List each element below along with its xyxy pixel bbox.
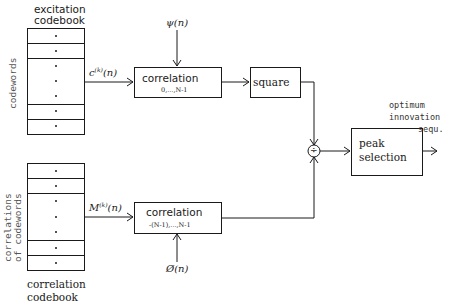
- output-label-line1: optimum: [389, 101, 425, 110]
- correlation-bottom-range: -(N-1),...,N-1: [149, 222, 191, 229]
- correlation-top-label: correlation: [142, 73, 198, 84]
- codeword-signal-label: c(k)(n): [89, 67, 117, 78]
- correlation-block-bottom: correlation -(N-1),...,N-1: [134, 202, 222, 234]
- correlation-codebook-title-line1: correlation: [27, 279, 86, 290]
- excitation-codebook-title-line2: codebook: [34, 15, 85, 26]
- diagram-canvas: excitation codebook codewords correlatio…: [0, 0, 454, 308]
- peak-label-line1: peak: [359, 138, 385, 149]
- mu-signal-label: M(k)(n): [89, 202, 122, 213]
- output-label-line2: innovation: [389, 113, 440, 122]
- psi-signal-label: ψ(n): [166, 18, 188, 28]
- excitation-codebook-title-line1: excitation: [34, 4, 86, 15]
- output-label-line3: sequ.: [418, 125, 444, 134]
- square-block: square: [250, 67, 301, 98]
- phi-signal-label: Ø(n): [166, 264, 188, 274]
- peak-selection-block: peak selection: [351, 128, 423, 176]
- divider-icon: ÷: [310, 146, 318, 155]
- correlation-bottom-label: correlation: [146, 207, 202, 218]
- correlation-block-top: correlation 0,...,N-1: [134, 67, 222, 98]
- correlations-side-label: correlations of codewords: [3, 193, 23, 262]
- correlation-top-range: 0,...,N-1: [161, 87, 188, 94]
- peak-label-line2: selection: [359, 152, 407, 163]
- codewords-side-label: codewords: [8, 58, 18, 109]
- square-label: square: [253, 77, 289, 88]
- correlations-side-label-line2: of codewords: [13, 193, 23, 262]
- correlation-codebook-title-line2: codebook: [27, 292, 78, 303]
